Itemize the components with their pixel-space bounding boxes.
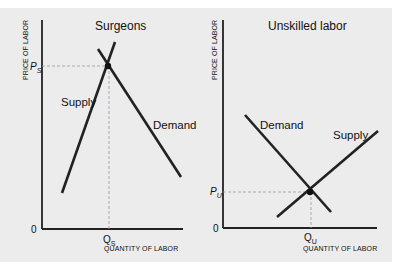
demand-label: Demand (153, 119, 196, 131)
x-axis-label: QUANTITY OF LABOR (303, 245, 377, 253)
panel-surgeons: Surgeons Supply Demand PRICE OF LABOR QU… (22, 19, 196, 253)
price-label: PS (30, 61, 42, 74)
panel-unskilled-labor: Unskilled labor Demand Supply PRICE OF L… (210, 19, 378, 253)
labor-market-diagram: Surgeons Supply Demand PRICE OF LABOR QU… (0, 0, 402, 269)
price-label: PU (210, 186, 223, 199)
panel-title: Unskilled labor (268, 19, 347, 33)
panel-title: Surgeons (95, 19, 146, 33)
y-axis-label: PRICE OF LABOR (22, 20, 29, 80)
origin-label: 0 (213, 223, 219, 234)
supply-curve (277, 131, 378, 217)
supply-label: Supply (333, 129, 368, 141)
supply-label: Supply (61, 96, 96, 108)
demand-label: Demand (260, 119, 303, 131)
quantity-label: QU (304, 232, 317, 245)
equilibrium-point (307, 189, 313, 195)
equilibrium-point (105, 63, 111, 69)
origin-label: 0 (31, 224, 37, 235)
demand-curve (98, 49, 181, 177)
y-axis-label: PRICE OF LABOR (211, 20, 218, 80)
